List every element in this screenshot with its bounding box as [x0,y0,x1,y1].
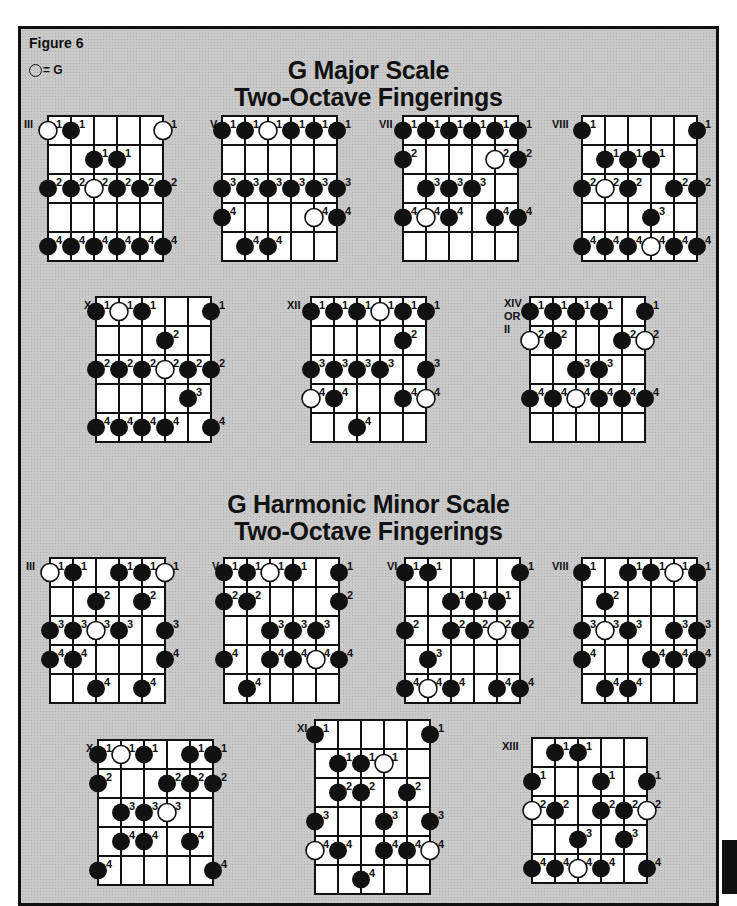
finger-number: 2 [255,589,261,601]
position-label: XIVORII [504,297,522,336]
fretboard-grid: 11111222233344444 [98,740,213,885]
finger-number: 2 [347,589,353,601]
finger-number: 1 [434,118,440,130]
finger-number: 1 [221,742,227,754]
note-dot-icon [131,238,149,256]
note-dot-icon [463,122,481,140]
finger-number: 1 [480,118,486,130]
finger-number: 2 [106,771,112,783]
note-dot-icon [64,564,82,582]
finger-number: 4 [540,856,547,868]
finger-number: 1 [540,769,546,781]
fretboard-grid: 11111222233444444 [530,297,645,442]
finger-number: 4 [173,647,180,659]
finger-number: 4 [538,386,545,398]
position-label: VI [387,560,397,573]
finger-number: 2 [413,618,419,630]
note-dot-icon [306,726,324,744]
note-dot-icon [417,303,435,321]
note-dot-icon [133,564,151,582]
finger-number: 1 [219,299,225,311]
note-dot-icon [329,755,347,773]
finger-number: 2 [590,176,596,188]
fretboard-grid: 11111222222444444 [48,116,163,261]
finger-number: 3 [586,827,592,839]
finger-number: 2 [609,798,615,810]
root-note-open-circle-icon [417,390,435,408]
finger-number: 4 [322,205,329,217]
root-note-open-circle-icon [41,564,59,582]
fretboard-grid: 11111223333344444 [50,558,165,703]
note-dot-icon [419,564,437,582]
note-dot-icon [158,775,176,793]
note-dot-icon [442,622,460,640]
note-dot-icon [596,151,614,169]
root-note-open-circle-icon [85,180,103,198]
finger-number: 4 [255,676,262,688]
root-note-open-circle-icon [417,209,435,227]
note-dot-icon [569,831,587,849]
note-dot-icon [108,180,126,198]
note-dot-icon [573,651,591,669]
root-note-open-circle-icon [488,622,506,640]
finger-number: 4 [436,676,443,688]
finger-number: 2 [415,780,421,792]
note-dot-icon [87,680,105,698]
note-dot-icon [261,651,279,669]
note-dot-icon [135,804,153,822]
note-dot-icon [238,564,256,582]
root-note-open-circle-icon [87,622,105,640]
finger-number: 1 [459,589,465,601]
note-dot-icon [592,860,610,878]
note-dot-icon [688,238,706,256]
fretboard-grid: 11111222333444444 [315,720,430,894]
finger-number: 1 [411,118,417,130]
finger-number: 3 [129,800,135,812]
note-dot-icon [204,775,222,793]
note-dot-icon [590,303,608,321]
note-dot-icon [394,151,412,169]
finger-number: 4 [503,205,510,217]
note-dot-icon [688,122,706,140]
note-dot-icon [330,651,348,669]
note-dot-icon [238,593,256,611]
finger-number: 1 [584,299,590,311]
finger-number: 3 [659,205,665,217]
note-dot-icon [85,151,103,169]
finger-number: 3 [636,618,642,630]
note-dot-icon [638,860,656,878]
major-diagram-pos-x: X11112222222344444 [96,297,211,442]
note-dot-icon [89,862,107,880]
note-dot-icon [394,332,412,350]
note-dot-icon [371,361,389,379]
finger-number: 4 [590,234,597,246]
finger-number: 1 [347,560,353,572]
fretboard-grid: 11111122222344444 [405,558,520,703]
finger-number: 4 [221,858,228,870]
fretboard-grid: 11111222223444444 [582,116,697,261]
finger-number: 1 [171,118,177,130]
finger-number: 4 [323,838,330,850]
note-dot-icon [108,151,126,169]
finger-number: 1 [323,722,329,734]
finger-number: 1 [411,299,417,311]
note-dot-icon [110,419,128,437]
note-dot-icon [181,775,199,793]
note-dot-icon [544,303,562,321]
finger-number: 1 [276,118,282,130]
finger-number: 1 [636,147,642,159]
note-dot-icon [573,180,591,198]
note-dot-icon [636,390,654,408]
note-dot-icon [133,593,151,611]
finger-number: 4 [129,829,136,841]
note-dot-icon [440,180,458,198]
finger-number: 4 [392,838,399,850]
page-tab-marker [722,840,737,894]
finger-number: 3 [175,800,181,812]
finger-number: 2 [102,176,108,188]
finger-number: 1 [232,560,238,572]
finger-number: 3 [324,618,330,630]
finger-number: 1 [301,560,307,572]
finger-number: 3 [388,357,394,369]
note-dot-icon [509,122,527,140]
